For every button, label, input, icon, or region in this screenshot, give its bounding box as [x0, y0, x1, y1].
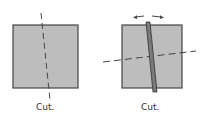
diagram-canvas: [0, 0, 206, 124]
double-arrow-icon: [133, 15, 164, 19]
figure-2-label: Cut.: [141, 102, 159, 112]
figure-1-label: Cut.: [36, 102, 54, 112]
figure-2: [103, 15, 196, 92]
figure-1: [13, 13, 78, 100]
